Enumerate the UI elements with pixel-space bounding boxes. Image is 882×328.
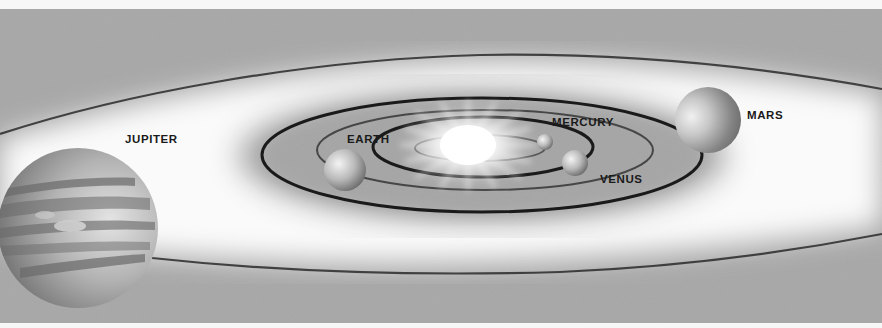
mars-planet-icon	[675, 87, 741, 153]
venus-planet-icon	[562, 150, 588, 176]
jupiter-planet-icon	[0, 148, 158, 308]
mercury-label: MERCURY	[552, 117, 614, 129]
top-border-strip	[0, 0, 882, 9]
jupiter-label: JUPITER	[125, 134, 178, 146]
earth-label: EARTH	[347, 134, 390, 146]
venus-label: VENUS	[600, 174, 643, 186]
bottom-border-strip	[0, 323, 882, 328]
mars-label: MARS	[747, 110, 783, 122]
solar-system-diagram	[0, 0, 882, 328]
earth-planet-icon	[324, 149, 366, 191]
mercury-planet-icon	[537, 134, 553, 150]
